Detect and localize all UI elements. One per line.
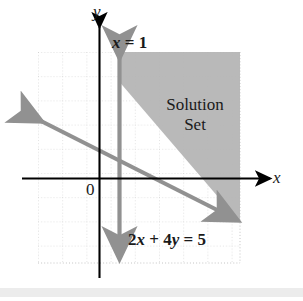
- equation-plus-term: + 4: [145, 230, 172, 249]
- x-axis-label: x: [273, 169, 281, 186]
- solution-set-label-line2: Set: [153, 116, 237, 133]
- equation-coefficient-1: 2: [128, 230, 137, 249]
- vertical-line-equation-rest: = 1: [121, 33, 148, 52]
- bottom-edge-strip: [0, 288, 303, 297]
- origin-label: 0: [86, 181, 95, 198]
- graph-canvas: [0, 0, 303, 301]
- equation-variable-x: x: [137, 230, 146, 249]
- vertical-line-equation-label: x = 1: [112, 34, 147, 51]
- diagonal-line-equation-label: 2x + 4y = 5: [128, 231, 206, 248]
- solution-set-label-line1: Solution: [166, 95, 224, 114]
- inequality-graph-figure: y x 0 x = 1 Solution Set 2x + 4y = 5: [0, 0, 303, 301]
- y-axis-label: y: [93, 3, 101, 20]
- solution-set-label: Solution Set: [153, 96, 237, 133]
- vertical-line-variable: x: [112, 33, 121, 52]
- equation-rest: = 5: [179, 230, 206, 249]
